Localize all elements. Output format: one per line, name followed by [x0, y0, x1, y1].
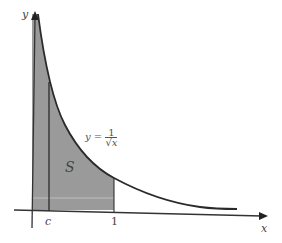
equation-denominator: √x [105, 138, 117, 147]
x-axis [14, 210, 262, 216]
region-label: S [65, 159, 75, 175]
tick-one-label: 1 [111, 215, 118, 228]
x-axis-arrow-icon [259, 212, 268, 220]
equation-lhs: y = [85, 131, 102, 142]
tick-c-label: c [45, 215, 51, 228]
y-axis-label: y [22, 8, 28, 21]
shaded-region-s [32, 14, 114, 210]
graph-canvas [0, 0, 282, 243]
x-axis-label: x [261, 222, 267, 235]
graph-figure: y x S c 1 y = 1 √x [0, 0, 282, 243]
curve-equation-label: y = 1 √x [85, 128, 117, 147]
